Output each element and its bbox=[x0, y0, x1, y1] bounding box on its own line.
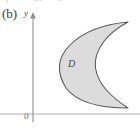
y-axis-arrowhead bbox=[30, 12, 36, 19]
origin-label: 0 bbox=[24, 112, 29, 121]
part-label: (b) bbox=[2, 7, 17, 21]
figure-panel-b: j 8. n (b) y 0 D bbox=[0, 0, 140, 133]
region-d-label: D bbox=[68, 59, 75, 69]
y-axis-label: y bbox=[24, 9, 28, 18]
